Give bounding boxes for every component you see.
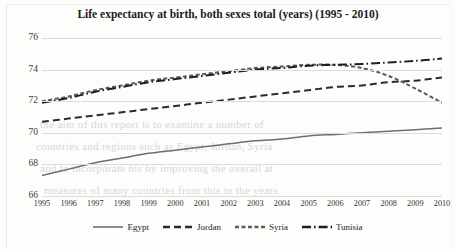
legend-item-tunisia[interactable]: Tunisia	[302, 222, 363, 232]
gridline	[42, 38, 442, 39]
x-axis-tick-label: 2007	[354, 199, 370, 208]
x-axis-tick-label: 2001	[194, 199, 210, 208]
y-axis-tick-label: 70	[10, 127, 38, 137]
gridline	[42, 196, 442, 197]
legend-label: Jordan	[197, 222, 221, 232]
y-axis-labels: 666870727476	[8, 38, 38, 196]
legend-swatch-syria	[235, 223, 265, 231]
x-axis-tick-label: 1999	[141, 199, 157, 208]
chart-page: the aim of this report is to examine a n…	[0, 0, 456, 251]
chart-title: Life expectancy at birth, both sexes tot…	[0, 8, 456, 20]
x-axis-tick-label: 1997	[87, 199, 103, 208]
y-axis-tick-label: 76	[10, 32, 38, 42]
legend-swatch-egypt	[93, 223, 123, 231]
x-axis-tick-label: 2005	[301, 199, 317, 208]
legend-item-syria[interactable]: Syria	[235, 222, 288, 232]
x-axis-tick-label: 2004	[274, 199, 290, 208]
x-axis-tick-label: 2006	[327, 199, 343, 208]
gridline	[42, 101, 442, 102]
x-axis-tick-label: 2000	[167, 199, 183, 208]
legend-swatch-tunisia	[302, 223, 332, 231]
legend-label: Syria	[269, 222, 288, 232]
series-lines	[42, 38, 442, 196]
series-line-jordan	[42, 78, 442, 122]
x-axis-tick-label: 2009	[407, 199, 423, 208]
chart-legend: EgyptJordanSyriaTunisia	[0, 222, 456, 232]
series-line-egypt	[42, 128, 442, 175]
y-axis-tick-label: 74	[10, 64, 38, 74]
legend-label: Egypt	[127, 222, 149, 232]
gridline	[42, 133, 442, 134]
legend-item-jordan[interactable]: Jordan	[163, 222, 221, 232]
gridline	[42, 164, 442, 165]
x-axis-labels: 1995199619971998199920002001200220032004…	[42, 199, 442, 213]
x-axis-tick-label: 2010	[434, 199, 450, 208]
plot-area	[42, 38, 442, 196]
y-axis-tick-label: 72	[10, 95, 38, 105]
x-axis-tick-label: 2002	[221, 199, 237, 208]
x-axis-tick-label: 1996	[61, 199, 77, 208]
series-line-tunisia	[42, 59, 442, 103]
x-axis-tick-label: 1998	[114, 199, 130, 208]
legend-swatch-jordan	[163, 223, 193, 231]
y-axis-tick-label: 68	[10, 158, 38, 168]
x-axis-tick-label: 2008	[381, 199, 397, 208]
x-axis-tick-label: 1995	[34, 199, 50, 208]
gridline	[42, 70, 442, 71]
legend-label: Tunisia	[336, 222, 363, 232]
legend-item-egypt[interactable]: Egypt	[93, 222, 149, 232]
x-axis-tick-label: 2003	[247, 199, 263, 208]
